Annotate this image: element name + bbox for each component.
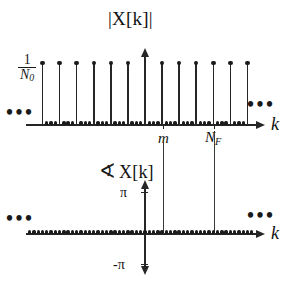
phase-sample (135, 230, 138, 233)
phase-sample (37, 230, 40, 233)
phase-sample (66, 230, 69, 233)
magnitude-zero-sample (207, 121, 210, 124)
phase-sample (246, 230, 249, 233)
magnitude-zero-sample (224, 121, 227, 124)
phase-sample (139, 230, 142, 233)
magnitude-zero-sample (130, 121, 133, 124)
phase-sample (224, 230, 227, 233)
phase-sample (173, 230, 176, 233)
magnitude-zero-sample (122, 121, 125, 124)
magnitude-zero-sample (79, 121, 82, 124)
phase-sample (203, 230, 206, 233)
phase-sample (186, 230, 189, 233)
phase-sample (58, 230, 61, 233)
phase-sample (250, 230, 253, 233)
figure-dft-spectrum: |X[k]| 1 N0 ••• ••• k m NF ∢ X[k] (0, 0, 293, 287)
magnitude-zero-sample (242, 121, 245, 124)
phase-sample (118, 230, 121, 233)
phase-sample (177, 230, 180, 233)
phase-sample (79, 230, 82, 233)
phase-sample (152, 230, 155, 233)
phase-sample (156, 230, 159, 233)
phase-sample (32, 230, 35, 233)
magnitude-zero-sample (169, 121, 172, 124)
magnitude-zero-sample (148, 121, 151, 124)
phase-sample (229, 230, 232, 233)
phase-sample (169, 230, 172, 233)
magnitude-plot: |X[k]| 1 N0 ••• ••• k m NF (0, 0, 293, 145)
phase-sample (71, 230, 74, 233)
phase-sample-group (0, 145, 293, 287)
phase-sample (126, 230, 129, 233)
magnitude-zero-sample (220, 121, 223, 124)
phase-sample (143, 230, 146, 233)
phase-sample (45, 230, 48, 233)
phase-sample (84, 230, 87, 233)
phase-sample (96, 230, 99, 233)
magnitude-zero-sample (71, 121, 74, 124)
magnitude-zero-sample (135, 121, 138, 124)
phase-sample (62, 230, 65, 233)
magnitude-zero-sample (113, 121, 116, 124)
phase-sample (54, 230, 57, 233)
magnitude-zero-sample (182, 121, 185, 124)
magnitude-zero-sample (237, 121, 240, 124)
phase-sample (88, 230, 91, 233)
phase-sample (182, 230, 185, 233)
magnitude-zero-sample-group (0, 0, 293, 145)
phase-sample (220, 230, 223, 233)
magnitude-zero-sample (186, 121, 189, 124)
phase-sample (41, 230, 44, 233)
magnitude-zero-sample (54, 121, 57, 124)
magnitude-zero-sample (233, 121, 236, 124)
magnitude-zero-sample (190, 121, 193, 124)
phase-sample (212, 230, 215, 233)
magnitude-zero-sample (156, 121, 159, 124)
phase-sample (75, 230, 78, 233)
phase-sample (242, 230, 245, 233)
magnitude-zero-sample (96, 121, 99, 124)
magnitude-zero-sample (216, 121, 219, 124)
magnitude-zero-sample (152, 121, 155, 124)
phase-sample (92, 230, 95, 233)
phase-sample (160, 230, 163, 233)
phase-sample (199, 230, 202, 233)
phase-sample (101, 230, 104, 233)
magnitude-zero-sample (173, 121, 176, 124)
phase-sample (109, 230, 112, 233)
phase-sample (237, 230, 240, 233)
phase-sample (49, 230, 52, 233)
phase-sample (233, 230, 236, 233)
magnitude-zero-sample (88, 121, 91, 124)
phase-sample (130, 230, 133, 233)
magnitude-zero-sample (101, 121, 104, 124)
magnitude-zero-sample (84, 121, 87, 124)
phase-sample (113, 230, 116, 233)
magnitude-zero-sample (139, 121, 142, 124)
phase-sample (148, 230, 151, 233)
phase-sample (28, 230, 31, 233)
magnitude-tick-m (163, 124, 164, 129)
magnitude-zero-sample (165, 121, 168, 124)
magnitude-zero-sample (49, 121, 52, 124)
magnitude-zero-sample (199, 121, 202, 124)
magnitude-zero-sample (45, 121, 48, 124)
phase-sample (105, 230, 108, 233)
magnitude-zero-sample (105, 121, 108, 124)
phase-sample (165, 230, 168, 233)
magnitude-zero-sample (203, 121, 206, 124)
magnitude-zero-sample (66, 121, 69, 124)
magnitude-zero-sample (118, 121, 121, 124)
magnitude-zero-sample (62, 121, 65, 124)
phase-sample (216, 230, 219, 233)
phase-sample (207, 230, 210, 233)
phase-plot: ∢ X[k] ••• ••• k π -π (0, 145, 293, 287)
phase-sample (122, 230, 125, 233)
phase-sample (190, 230, 193, 233)
phase-sample (195, 230, 198, 233)
